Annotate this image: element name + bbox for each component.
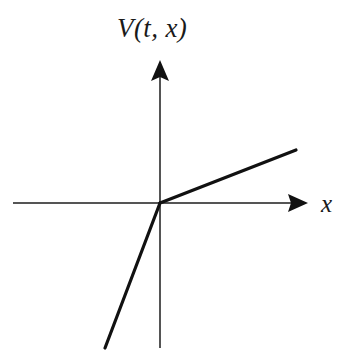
plot-canvas [0, 0, 352, 364]
function-curve [105, 150, 296, 348]
curve-segment-steep [105, 203, 160, 348]
curve-segment-shallow [160, 150, 296, 203]
v-axis-label: V(t, x) [117, 13, 187, 44]
x-axis-label: x [321, 190, 332, 218]
x-axis-arrowhead [288, 194, 308, 212]
figure-container: V(t, x) x [0, 0, 352, 364]
